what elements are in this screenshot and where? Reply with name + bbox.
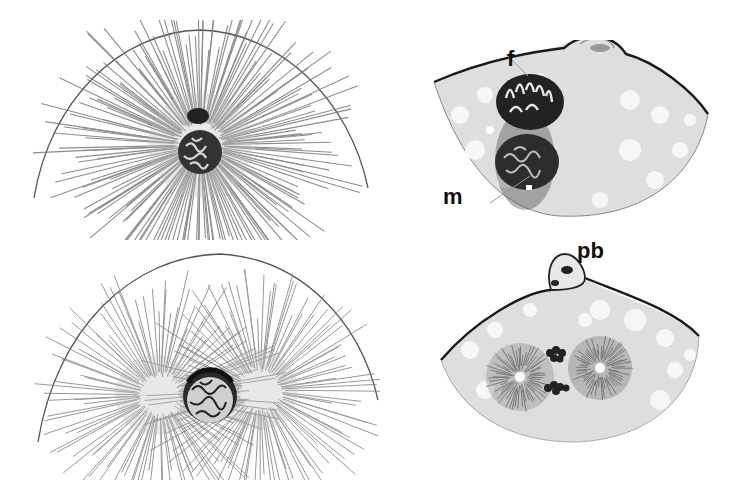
label-female-pronucleus: f <box>507 48 514 70</box>
aster-illustration-1 <box>20 20 380 240</box>
panel-top-left-aster <box>20 20 380 240</box>
label-male-pronucleus: m <box>443 186 463 208</box>
panel-bottom-left-spindle <box>20 250 380 480</box>
metaphase-illustration <box>435 250 725 470</box>
male-pronucleus-icon <box>495 134 559 190</box>
panel-top-right-pronuclei <box>430 40 720 240</box>
polar-body-nucleus-icon <box>561 266 573 274</box>
centrosome-icon <box>486 126 494 134</box>
centrosome-left-icon <box>515 372 525 382</box>
pronuclei-illustration <box>430 40 720 240</box>
label-polar-body: pb <box>577 240 604 262</box>
panel-bottom-right-metaphase <box>435 250 725 470</box>
aster-illustration-2 <box>20 250 380 480</box>
polar-body-icon <box>590 44 610 52</box>
centrosome-right-icon <box>595 363 605 373</box>
